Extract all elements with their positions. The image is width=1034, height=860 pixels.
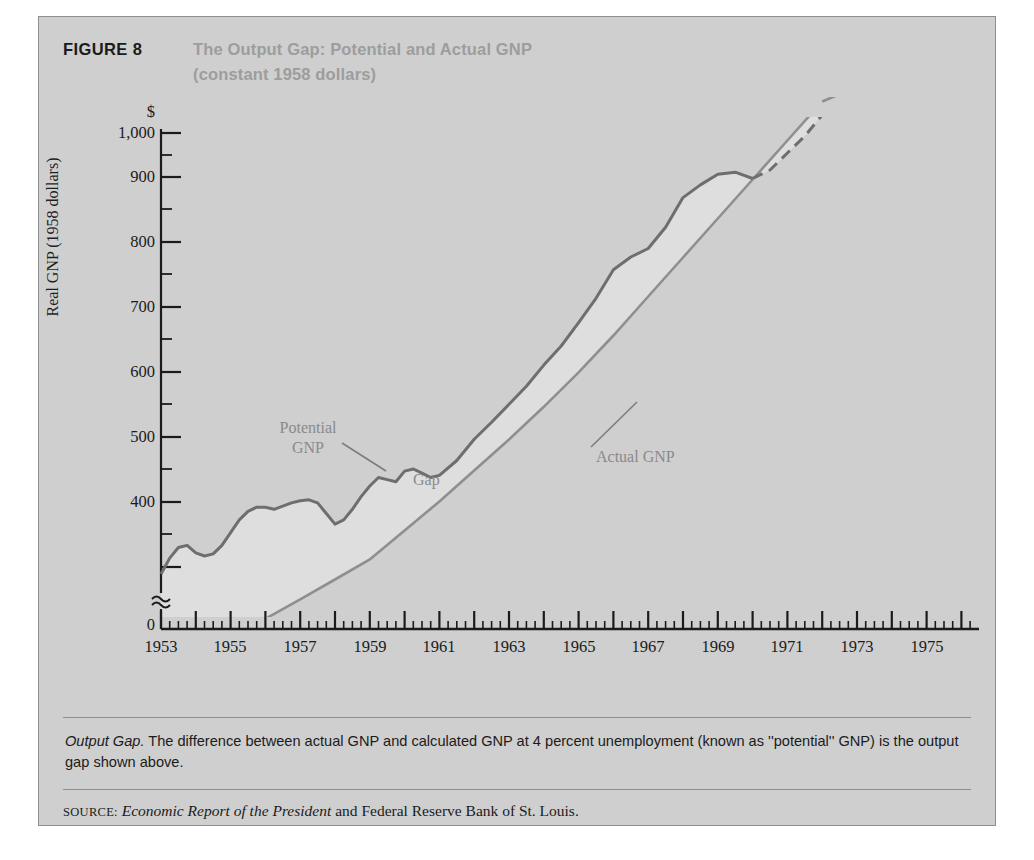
y-tick-600: 600 (79, 362, 155, 382)
caption-body: The difference between actual GNP and ca… (65, 733, 959, 770)
y-tick-0: 0 (79, 615, 155, 635)
source-block: SOURCE: Economic Report of the President… (63, 789, 971, 820)
x-tick-1957: 1957 (268, 637, 332, 657)
x-tick-1975: 1975 (895, 637, 959, 657)
x-tick-1961: 1961 (407, 637, 471, 657)
y-tick-400: 400 (79, 492, 155, 512)
figure-title-line-1: The Output Gap: Potential and Actual GNP (193, 37, 953, 62)
caption-block: Output Gap. The difference between actua… (63, 717, 971, 773)
source-rest: and Federal Reserve Bank of St. Louis. (331, 802, 579, 819)
gap-shaded-area (161, 97, 857, 661)
x-tick-1967: 1967 (616, 637, 680, 657)
x-tick-1959: 1959 (338, 637, 402, 657)
y-axis-currency-marker: $ (99, 102, 155, 122)
chart-plot-area: Real GNP (1958 dollars) (51, 97, 983, 697)
caption-text: Output Gap. The difference between actua… (63, 731, 971, 773)
annotation-actual-gnp: Actual GNP (596, 448, 675, 466)
figure-panel: FIGURE 8 The Output Gap: Potential and A… (38, 16, 996, 826)
y-axis-ticks (161, 133, 181, 567)
output-gap-chart (51, 97, 983, 697)
y-tick-700: 700 (79, 297, 155, 317)
x-tick-1963: 1963 (477, 637, 541, 657)
source-line: SOURCE: Economic Report of the President… (63, 802, 971, 820)
source-top-rule (63, 789, 971, 790)
potential-gnp-line-upper (822, 97, 857, 102)
x-tick-1971: 1971 (755, 637, 819, 657)
x-tick-1955: 1955 (198, 637, 262, 657)
y-axis-title: Real GNP (1958 dollars) (44, 122, 62, 352)
x-tick-1969: 1969 (686, 637, 750, 657)
caption-lead: Output Gap. (65, 733, 145, 749)
figure-title: The Output Gap: Potential and Actual GNP… (193, 37, 953, 87)
x-tick-1973: 1973 (825, 637, 889, 657)
x-tick-1965: 1965 (547, 637, 611, 657)
annotation-gap: Gap (413, 471, 440, 489)
y-tick-900: 900 (79, 167, 155, 187)
annotation-potential-gnp: Potential GNP (263, 418, 353, 458)
y-axis-minor-ticks (161, 155, 172, 534)
actual-leader-line (591, 402, 637, 447)
y-tick-500: 500 (79, 427, 155, 447)
y-tick-1000: 1,000 (79, 123, 155, 143)
figure-number: FIGURE 8 (63, 40, 142, 59)
annotation-potential-line1: Potential (280, 419, 337, 436)
source-label: SOURCE: (63, 805, 118, 819)
caption-top-rule (63, 717, 971, 718)
y-tick-800: 800 (79, 232, 155, 252)
source-publication: Economic Report of the President (122, 802, 332, 819)
figure-title-line-2: (constant 1958 dollars) (193, 62, 953, 87)
x-tick-1953: 1953 (129, 637, 193, 657)
annotation-potential-line2: GNP (292, 439, 324, 456)
